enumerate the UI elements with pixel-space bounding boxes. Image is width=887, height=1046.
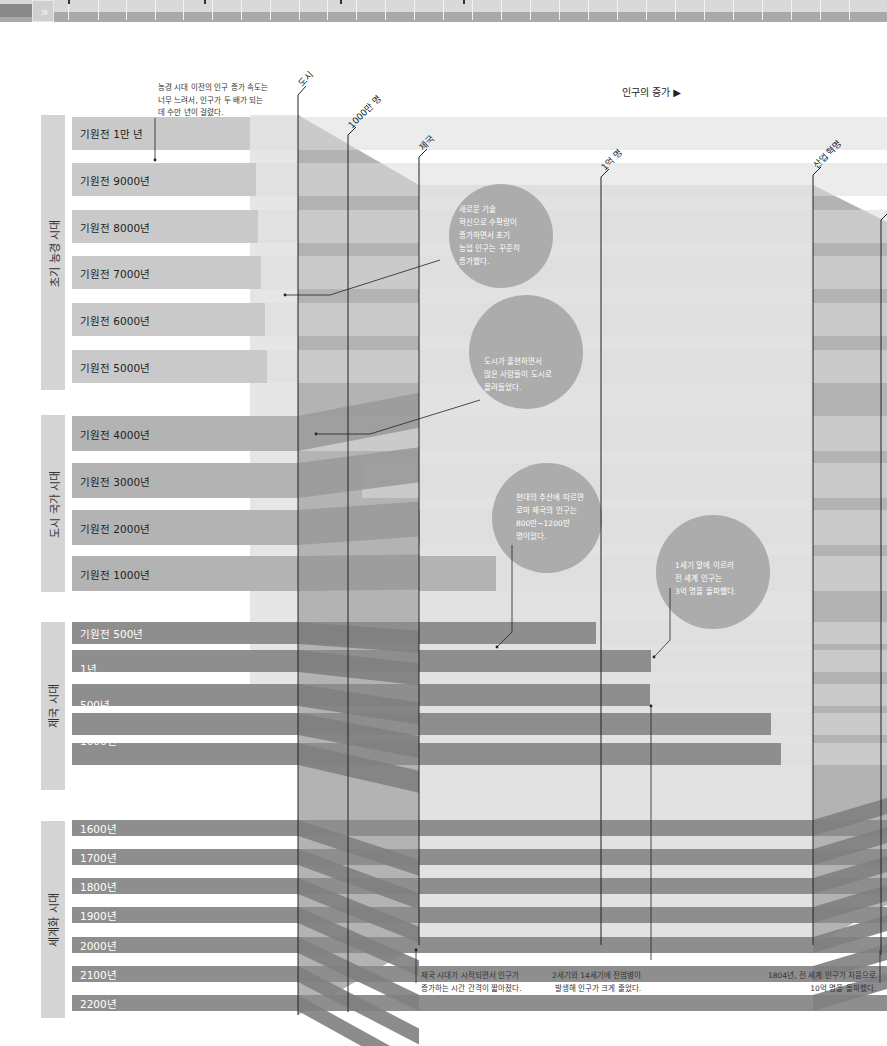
row-label: 기원전 9000년 [80,173,150,188]
callout-1804-billion: 1804년, 전 세계 인구가 처음으로 10억 명을 돌파했다. [742,970,876,995]
bubble-text-agriculture: 새로운 기술 혁신으로 수확량이 증가하면서 초기 농업 인구는 꾸준히 증가했… [459,203,520,268]
row-label: 기원전 7000년 [80,266,150,281]
row-label: 1년 [80,661,97,676]
row-label: 2200년 [80,996,117,1011]
callout-empire-start: 제국 시대가 시작되면서 인구가 증가하는 시간 간격이 짧아졌다. [421,970,522,995]
row-label: 기원전 5000년 [80,360,150,375]
bubble-text-city: 도시가 출현하면서 많은 사람들이 도시로 몰려들었다. [484,355,552,394]
row-label: 1900년 [80,908,117,923]
photo-backdrop [250,115,300,705]
callout-plague: 2세기와 14세기에 전염병이 발생해 인구가 크게 줄었다. [552,970,641,995]
row-label: 기원전 2000년 [80,521,150,536]
row-label: 기원전 1만 년 [80,126,143,141]
population-bar [72,713,771,735]
bubble-text-rome: 현대의 추산에 따르면 로마 제국의 인구는 800만~1200만 명이었다. [516,491,584,543]
callout-pre-agriculture: 농경 시대 이전의 인구 증가 속도는 너무 느려서, 인구가 두 배가 되는 … [158,82,268,120]
row-label: 기원전 4000년 [80,427,150,442]
era-label-globalization: 세계화 시대 [41,821,65,1018]
row-label: 1500년 [80,769,117,784]
axis-title: 인구의 증가 ▶ [622,84,681,99]
population-bar [72,743,781,765]
row-label: 기원전 8000년 [80,220,150,235]
row-label: 1800년 [80,879,117,894]
population-bar [72,907,887,923]
population-bar [72,937,887,953]
row-label: 500년 [80,697,110,712]
era-label-early-agriculture: 초기 농경 시대 [41,115,65,390]
row-label: 기원전 3000년 [80,474,150,489]
bubble-text-1st-century: 1세기 말에 이르러 전 세계 인구는 3억 명을 돌파했다. [675,559,736,598]
row-label: 2000년 [80,938,117,953]
row-label: 1600년 [80,821,117,836]
era-label-city-state: 도시 국가 시대 [41,415,65,592]
era-label-empire: 제국 시대 [41,622,65,790]
row-label: 기원전 6000년 [80,313,150,328]
population-bar [72,849,887,865]
row-label: 1000년 [80,733,117,748]
row-label: 기원전 500년 [80,626,143,641]
population-bar [72,878,887,894]
population-bar [72,995,887,1011]
row-label: 기원전 1000년 [80,567,150,582]
row-label: 1700년 [80,850,117,865]
row-label: 2100년 [80,967,117,982]
population-bar [72,820,887,836]
